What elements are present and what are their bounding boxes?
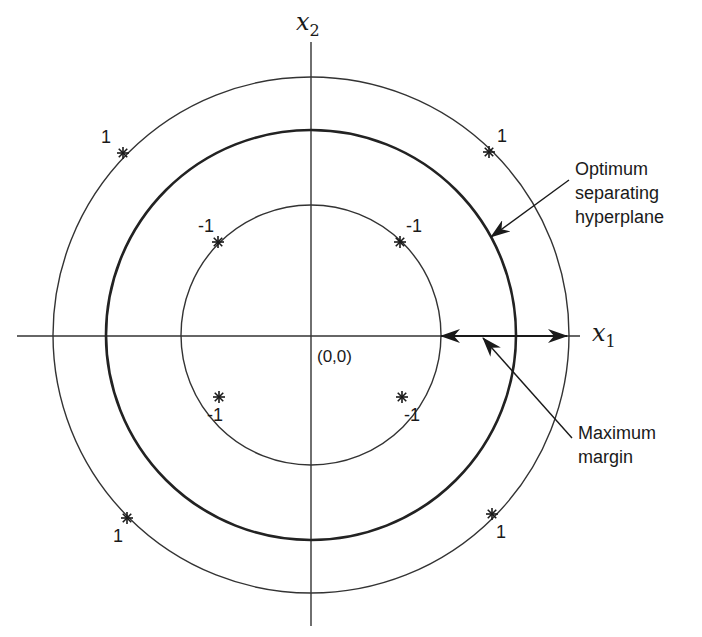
point-class-label: 1: [113, 526, 123, 546]
y-axis-label: x2: [296, 8, 320, 40]
asterisk-marker-icon: [213, 391, 225, 403]
asterisk-marker-icon: [396, 391, 408, 403]
asterisk-marker-icon: [486, 508, 498, 520]
point-class-label: -1: [198, 216, 214, 236]
point-class-label: -1: [207, 405, 223, 425]
point-class-label: -1: [404, 405, 420, 425]
hyperplane-label-line1: Optimum: [575, 159, 648, 179]
svm-diagram: x2 x1 (0,0) 1111-1-1-1-1 Optimum separat…: [0, 0, 702, 637]
point-class-label: -1: [406, 216, 422, 236]
hyperplane-annotation: Optimum separating hyperplane: [575, 159, 664, 227]
hyperplane-label-line2: separating: [575, 183, 659, 203]
point-class-label: 1: [101, 127, 111, 147]
x-axis-label: x1: [592, 319, 616, 351]
margin-label-line2: margin: [578, 447, 633, 467]
origin-label: (0,0): [317, 347, 352, 366]
asterisk-marker-icon: [121, 512, 133, 524]
point-class-label: 1: [496, 522, 506, 542]
asterisk-marker-icon: [483, 146, 495, 158]
asterisk-marker-icon: [394, 236, 406, 248]
point-class-label: 1: [497, 126, 507, 146]
asterisk-marker-icon: [117, 147, 129, 159]
asterisk-marker-icon: [212, 236, 224, 248]
hyperplane-pointer-arrow: [491, 180, 569, 237]
margin-label-line1: Maximum: [578, 423, 656, 443]
hyperplane-label-line3: hyperplane: [575, 207, 664, 227]
margin-annotation: Maximum margin: [578, 423, 656, 467]
